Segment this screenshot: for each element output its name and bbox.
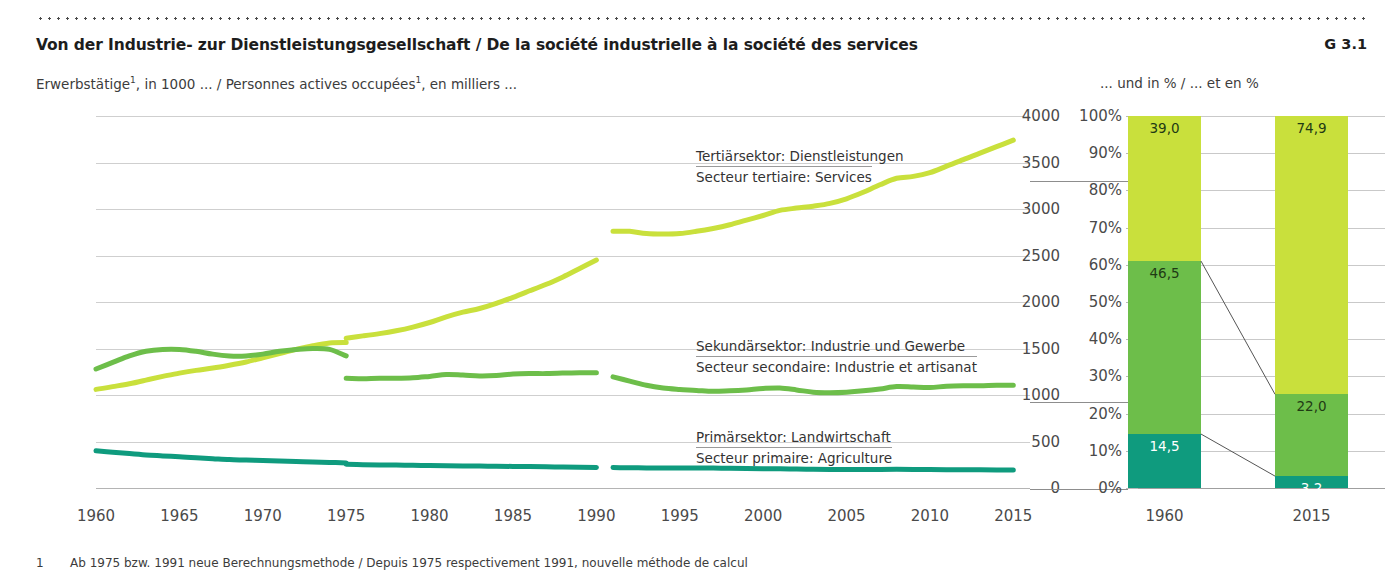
subtitle-right: ... und in % / ... et en % [1100, 75, 1259, 91]
bar-value-label-2015-1: 22,0 [1275, 398, 1348, 414]
line-x-tick-2015: 2015 [978, 507, 1048, 525]
bar-y-tick-100%: 100% [1060, 107, 1122, 125]
bar-connector-line-1 [1201, 261, 1275, 394]
line-series-1-segment-1 [346, 373, 596, 379]
line-x-tick-1980: 1980 [395, 507, 465, 525]
bar-x-tick-2015: 2015 [1262, 507, 1362, 525]
legend-secondary-de: Sekundärsektor: Industrie und Gewerbe [696, 337, 977, 356]
bar-chart-panel: 0%10%20%30%40%50%60%70%80%90%100% 14,546… [1060, 108, 1385, 498]
line-x-tick-1990: 1990 [561, 507, 631, 525]
legend-secondary: Sekundärsektor: Industrie und Gewerbe Se… [696, 337, 977, 377]
bar-y-tick-0%: 0% [1060, 479, 1122, 497]
bar-y-tick-50%: 50% [1060, 293, 1122, 311]
bar-y-tick-60%: 60% [1060, 256, 1122, 274]
bar-tick-mark-0% [1126, 488, 1138, 489]
bar-y-tick-80%: 80% [1060, 181, 1122, 199]
bar-y-tick-10%: 10% [1060, 442, 1122, 460]
bar-y-tick-40%: 40% [1060, 330, 1122, 348]
legend-primary-de: Primärsektor: Landwirtschaft [696, 428, 892, 447]
line-x-tick-1995: 1995 [645, 507, 715, 525]
bar-value-label-2015-0: 3,2 [1275, 480, 1348, 496]
line-x-tick-2000: 2000 [728, 507, 798, 525]
bar-y-tick-90%: 90% [1060, 144, 1122, 162]
subtitle-left-pre: Erwerbstätige [36, 76, 130, 92]
bar-value-label-1960-0: 14,5 [1128, 438, 1201, 454]
bar-value-label-1960-1: 46,5 [1128, 265, 1201, 281]
bar-value-label-2015-2: 74,9 [1275, 120, 1348, 136]
bar-x-tick-1960: 1960 [1115, 507, 1215, 525]
legend-primary: Primärsektor: Landwirtschaft Secteur pri… [696, 428, 892, 468]
line-x-tick-2010: 2010 [895, 507, 965, 525]
subtitle-left-post: , en milliers ... [421, 76, 517, 92]
line-series-2-segment-1 [346, 464, 596, 467]
bar-column-2015[interactable]: 3,222,074,9 [1275, 116, 1348, 488]
legend-tertiary: Tertiärsektor: Dienstleistungen Secteur … [696, 147, 904, 187]
line-x-tick-1965: 1965 [144, 507, 214, 525]
footnote-text: Ab 1975 bzw. 1991 neue Berechnungsmethod… [70, 556, 748, 570]
legend-primary-fr: Secteur primaire: Agriculture [696, 447, 892, 468]
bar-y-tick-20%: 20% [1060, 405, 1122, 423]
line-x-tick-1960: 1960 [61, 507, 131, 525]
bar-column-1960[interactable]: 14,546,539,0 [1128, 116, 1201, 488]
line-x-tick-1985: 1985 [478, 507, 548, 525]
line-series-1-segment-2 [613, 377, 1013, 393]
page-title: Von der Industrie- zur Dienstleistungsge… [36, 36, 918, 54]
legend-tertiary-de: Tertiärsektor: Dienstleistungen [696, 147, 904, 166]
bar-y-tick-30%: 30% [1060, 367, 1122, 385]
bar-segment-1960-2[interactable] [1128, 116, 1201, 261]
chart-number-badge: G 3.1 [1324, 36, 1367, 52]
bar-connector-line-0 [1201, 434, 1275, 476]
bar-value-label-1960-2: 39,0 [1128, 120, 1201, 136]
bar-segment-1960-1[interactable] [1128, 261, 1201, 434]
line-series-2-segment-0 [96, 451, 346, 463]
line-x-tick-1975: 1975 [311, 507, 381, 525]
line-x-tick-1970: 1970 [228, 507, 298, 525]
legend-tertiary-fr: Secteur tertiaire: Services [696, 166, 872, 187]
line-series-0-segment-1 [346, 260, 596, 338]
footnote-marker: 1 [36, 556, 44, 570]
subtitle-left-mid: , in 1000 ... / Personnes actives occupé… [136, 76, 416, 92]
line-x-tick-2005: 2005 [812, 507, 882, 525]
bar-segment-2015-2[interactable] [1275, 116, 1348, 395]
bar-y-tick-70%: 70% [1060, 219, 1122, 237]
subtitle-left: Erwerbstätige1, in 1000 ... / Personnes … [36, 75, 517, 92]
top-dotted-rule [36, 17, 1366, 20]
legend-secondary-fr: Secteur secondaire: Industrie et artisan… [696, 356, 977, 377]
